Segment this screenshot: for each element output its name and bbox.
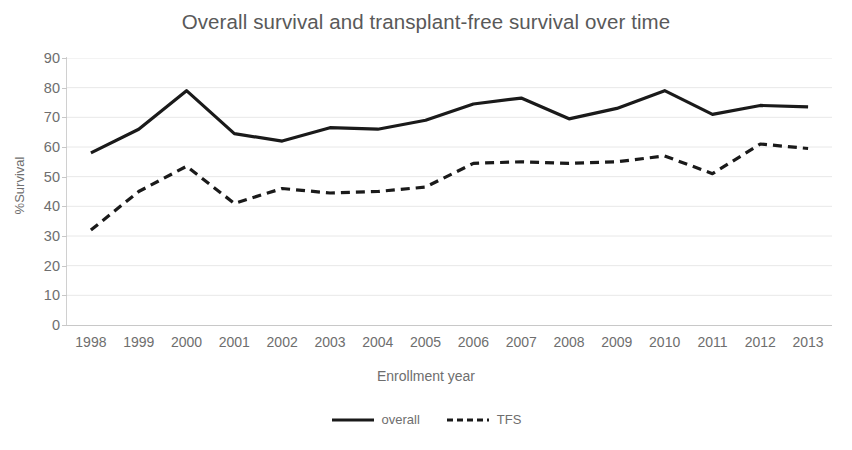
solid-line-swatch: [331, 415, 375, 425]
dashed-line-swatch: [446, 415, 490, 425]
plot-svg: [67, 58, 832, 325]
legend-entry-TFS[interactable]: TFS: [446, 412, 522, 427]
y-tick-label: 90: [2, 51, 60, 66]
y-tick-label: 20: [2, 258, 60, 273]
x-axis-title: Enrollment year: [0, 368, 852, 384]
legend-entry-overall[interactable]: overall: [331, 412, 420, 427]
y-tick-label: 80: [2, 80, 60, 95]
legend-label: TFS: [497, 412, 522, 427]
series-lines: [91, 91, 808, 230]
plot-area: [67, 58, 832, 325]
series-line-overall: [91, 91, 808, 153]
x-axis-tick-labels: 1998199920002001200220032004200520062007…: [67, 334, 832, 356]
chart-legend: overallTFS: [0, 412, 852, 427]
series-line-TFS: [91, 144, 808, 230]
y-axis-title: %Survival: [12, 141, 27, 231]
y-tick-label: 70: [2, 110, 60, 125]
y-axis-tick-labels: 0102030405060708090: [0, 58, 60, 325]
x-tick-label: 2013: [778, 334, 838, 351]
chart-container: Overall survival and transplant-free sur…: [0, 0, 852, 450]
y-tick-label: 0: [2, 318, 60, 333]
chart-title: Overall survival and transplant-free sur…: [0, 10, 852, 34]
y-tick-label: 10: [2, 288, 60, 303]
y-tick-label: 30: [2, 229, 60, 244]
legend-label: overall: [382, 412, 420, 427]
x-axis-line: [66, 325, 832, 326]
